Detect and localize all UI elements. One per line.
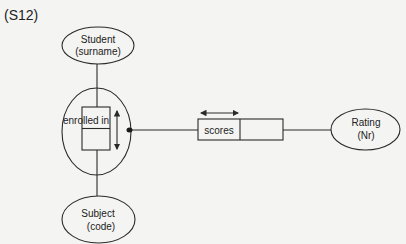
entity-student-attribute: (surname) xyxy=(75,46,121,57)
mandatory-role-dot xyxy=(127,128,133,133)
entity-subject-shape xyxy=(62,196,135,243)
entity-subject-name: Subject xyxy=(81,208,115,219)
orm-diagram: (S12) Student (surname) enrolled in scor… xyxy=(0,0,406,244)
entity-rating-attribute: (Nr) xyxy=(357,130,374,141)
entity-rating[interactable]: Rating (Nr) xyxy=(331,109,400,150)
fact-type-label: enrolled in xyxy=(63,115,109,126)
entity-subject-attribute: (code) xyxy=(87,221,115,232)
diagram-label: (S12) xyxy=(4,7,38,23)
entity-rating-name: Rating xyxy=(352,117,381,128)
scores-label: scores xyxy=(204,125,233,136)
fact-type-scores[interactable]: scores xyxy=(198,113,283,140)
entity-subject[interactable]: Subject (code) xyxy=(62,196,135,243)
entity-student-name: Student xyxy=(81,34,116,45)
entity-student[interactable]: Student (surname) xyxy=(62,27,134,64)
